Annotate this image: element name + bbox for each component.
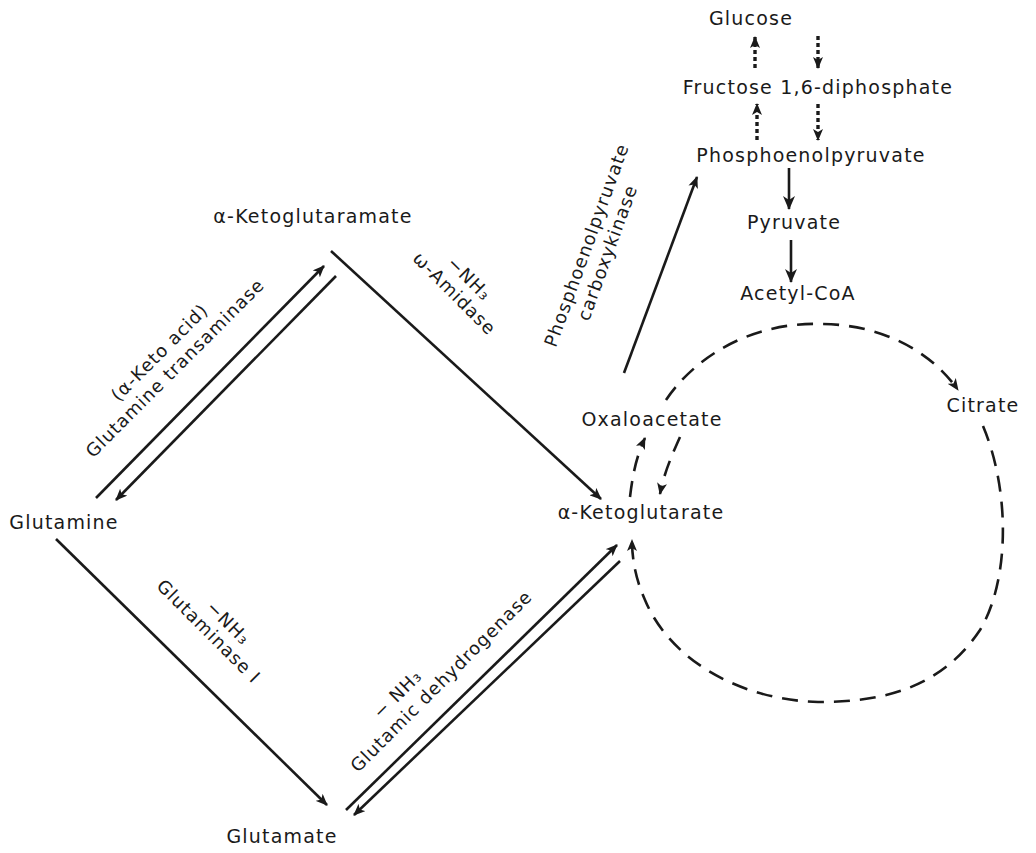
node-fructose-diphosphate: Fructose 1,6-diphosphate bbox=[683, 76, 953, 98]
arrow-citrate-to-ketoglutarate bbox=[632, 426, 1003, 702]
label-glutaminase: −NH₃ Glutaminase I bbox=[153, 561, 280, 688]
node-glutamine: Glutamine bbox=[9, 511, 118, 533]
label-pepck: Phosphoenolpyruvate carboxykinase bbox=[540, 141, 654, 357]
arrow-oxaloacetate-to-ketoglutarate bbox=[660, 437, 680, 494]
node-citrate: Citrate bbox=[947, 394, 1020, 416]
enzyme-glutamic-dehydrogenase: Glutamic dehydrogenase bbox=[346, 586, 536, 776]
node-phosphoenolpyruvate: Phosphoenolpyruvate bbox=[696, 144, 925, 166]
node-alpha-ketoglutaramate: α-Ketoglutaramate bbox=[213, 205, 412, 227]
pathway-diagram: Glucose Fructose 1,6-diphosphate Phospho… bbox=[0, 0, 1036, 853]
arrow-ketoglutarate-to-oxaloacetate bbox=[630, 438, 645, 497]
node-glutamate: Glutamate bbox=[226, 825, 337, 847]
arrow-glutamate-to-ketoglutarate bbox=[346, 545, 617, 810]
label-glutamic-dehydrogenase: − NH₃ Glutamic dehydrogenase bbox=[330, 570, 536, 776]
enzyme-glutamine-transaminase: Glutamine transaminase bbox=[81, 274, 268, 461]
arrow-glutamine-to-glutamate bbox=[56, 539, 327, 805]
label-glutamine-transaminase: (α-Keto acid) Glutamine transaminase bbox=[66, 259, 269, 462]
node-acetyl-coa: Acetyl-CoA bbox=[740, 282, 856, 304]
label-omega-amidase: −NH₃ ω-Amidase bbox=[409, 233, 515, 339]
node-alpha-ketoglutarate: α-Ketoglutarate bbox=[558, 501, 725, 523]
node-pyruvate: Pyruvate bbox=[747, 211, 841, 233]
node-glucose: Glucose bbox=[709, 7, 793, 29]
node-oxaloacetate: Oxaloacetate bbox=[581, 408, 722, 430]
arrow-oxaloacetate-to-citrate bbox=[666, 324, 958, 400]
diagram-svg: Glucose Fructose 1,6-diphosphate Phospho… bbox=[0, 0, 1036, 853]
